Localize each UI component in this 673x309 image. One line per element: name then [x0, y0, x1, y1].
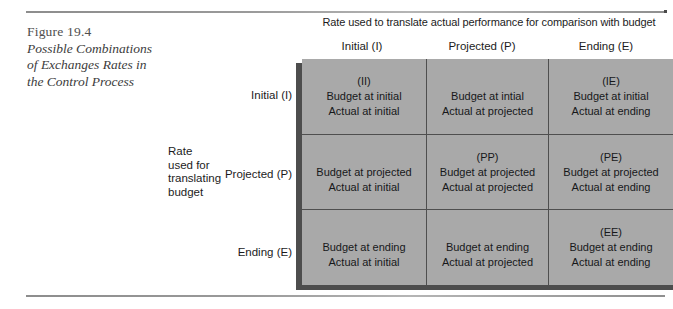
cell-actual: Actual at ending	[572, 104, 651, 119]
matrix-cell-IP[interactable]: Budget at intial Actual at projected	[426, 59, 548, 134]
cell-budget: Budget at ending	[322, 240, 405, 255]
cell-code: (PE)	[600, 150, 622, 165]
matrix-cell-PE[interactable]: (PE) Budget at projected Actual at endin…	[548, 135, 673, 210]
matrix-cell-EI[interactable]: Budget at ending Actual at initial	[302, 210, 426, 285]
cell-actual: Actual at ending	[572, 180, 651, 195]
cell-actual: Actual at projected	[442, 180, 533, 195]
cell-budget: Budget at initial	[573, 89, 648, 104]
cell-actual: Actual at initial	[329, 180, 400, 195]
cell-budget: Budget at initial	[326, 89, 401, 104]
matrix-row-ending: Budget at ending Actual at initial Budge…	[302, 209, 673, 285]
matrix-cell-EE[interactable]: (EE) Budget at ending Actual at ending	[548, 210, 673, 285]
cell-budget: Budget at intial	[451, 89, 524, 104]
bottom-divider-rule	[26, 295, 665, 297]
column-axis-title: Rate used to translate actual performanc…	[310, 16, 668, 28]
cell-actual: Actual at projected	[442, 255, 533, 270]
column-header-projected: Projected (P)	[421, 40, 543, 52]
cell-actual: Actual at ending	[572, 255, 651, 270]
column-header-row: Initial (I) Projected (P) Ending (E)	[303, 40, 669, 52]
figure-title-line-1: Possible Combinations	[27, 41, 207, 58]
cell-code: (EE)	[600, 225, 622, 240]
top-divider-rule	[26, 11, 665, 13]
column-header-ending: Ending (E)	[543, 40, 669, 52]
matrix-cell-IE[interactable]: (IE) Budget at initial Actual at ending	[548, 59, 673, 134]
matrix-row-initial: (II) Budget at initial Actual at initial…	[302, 59, 673, 134]
cell-budget: Budget at projected	[563, 165, 658, 180]
cell-actual: Actual at projected	[442, 104, 533, 119]
cell-actual: Actual at initial	[329, 104, 400, 119]
matrix-row-projected: Budget at projected Actual at initial (P…	[302, 134, 673, 210]
matrix-container: (II) Budget at initial Actual at initial…	[296, 59, 673, 290]
matrix-cell-PI[interactable]: Budget at projected Actual at initial	[302, 135, 426, 210]
matrix-cell-EP[interactable]: Budget at ending Actual at projected	[426, 210, 548, 285]
cell-code: (PP)	[477, 150, 499, 165]
combination-matrix: (II) Budget at initial Actual at initial…	[302, 59, 673, 285]
row-header-initial: Initial (I)	[251, 89, 292, 101]
row-header-projected: Projected (P)	[225, 168, 292, 180]
top-rule-end-dot	[664, 10, 667, 13]
cell-budget: Budget at ending	[569, 240, 652, 255]
cell-code: (IE)	[602, 74, 620, 89]
row-header-ending: Ending (E)	[238, 246, 292, 258]
row-header-column: Initial (I) Projected (P) Ending (E)	[180, 58, 292, 288]
figure-number: Figure 19.4	[27, 24, 207, 41]
cell-code: (II)	[357, 74, 370, 89]
matrix-cell-II[interactable]: (II) Budget at initial Actual at initial	[302, 59, 426, 134]
column-header-initial: Initial (I)	[303, 40, 421, 52]
cell-budget: Budget at projected	[440, 165, 535, 180]
cell-budget: Budget at ending	[446, 240, 529, 255]
cell-actual: Actual at initial	[329, 255, 400, 270]
cell-budget: Budget at projected	[316, 165, 411, 180]
matrix-cell-PP[interactable]: (PP) Budget at projected Actual at proje…	[426, 135, 548, 210]
